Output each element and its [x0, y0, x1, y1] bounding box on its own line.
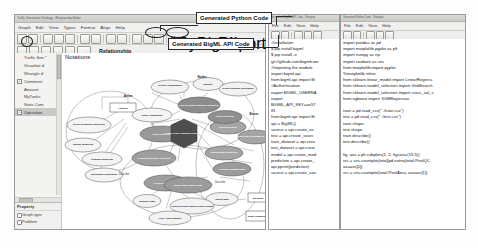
svg-text:Traffic data engineering: Traffic data engineering [174, 184, 203, 187]
node-sensor-data-collection[interactable]: Sensor data collection [205, 146, 243, 160]
node-result-visualization[interactable]: Result Visualization [151, 80, 189, 94]
tree-item-mytanks[interactable]: MyTanks [15, 93, 61, 101]
bigml-code-text[interactable]: #Installation$ pip install bigml$ pip in… [269, 39, 339, 229]
zoom-icon[interactable] [132, 34, 142, 44]
node-mytanks[interactable]: MyTanks [248, 193, 265, 202]
property-label: Graph type [22, 212, 42, 217]
callout-leader-line [278, 35, 279, 47]
node-driver-behaviour-modeling[interactable]: Driver behaviour modeling [67, 117, 111, 133]
svg-text:Live predictive/analytic proto: Live predictive/analytic prototype [179, 104, 219, 107]
node-filter-split-dataset[interactable]: Filter / split dataset [149, 211, 191, 225]
node-supply-modeling[interactable]: Supply modeling [65, 138, 101, 152]
svg-text:Wrangle data: Wrangle data [139, 200, 155, 203]
node-data-collection[interactable]: Data collection [208, 111, 242, 124]
tree-item-amount[interactable]: Amount [15, 85, 61, 93]
property-row-graph-type[interactable]: Graph type [15, 211, 61, 218]
copy-icon[interactable] [54, 34, 64, 44]
tree-vertical-scrollbar[interactable] [56, 53, 61, 195]
undo-icon[interactable] [80, 34, 90, 44]
scrollbar-thumb[interactable] [57, 55, 61, 79]
svg-text:Boxes: Boxes [249, 112, 258, 116]
property-row-problem[interactable]: Problem [15, 218, 61, 225]
python-menubar: File Edit View Help [341, 22, 465, 31]
menu-view[interactable]: View [49, 23, 59, 32]
diagram-body: Traffic Sim * Visualize d Wrangle d + Co… [15, 53, 265, 229]
code-line: srs = sns.countplot(total.PoolArea, ax=a… [343, 170, 464, 176]
node-provide-realtime-data[interactable]: Provide realtime data [213, 162, 251, 176]
callout-leader-line [238, 47, 278, 48]
diagram-canvas[interactable]: Notations [62, 53, 265, 229]
paste-icon[interactable] [65, 34, 75, 44]
node-traffic-simulation[interactable]: Traffic Simulation [132, 108, 172, 122]
svg-text:Traffic Simulation: Traffic Simulation [142, 114, 163, 117]
menu-file[interactable]: File [344, 22, 351, 30]
tree-item-traffic-sim[interactable]: Traffic Sim * [15, 54, 61, 62]
graph-nodes: Result Visualization Monitor React Realt… [65, 78, 265, 226]
node-traffic-data-engineering[interactable]: Traffic data engineering [164, 177, 212, 193]
menu-graph[interactable]: Graph [18, 23, 31, 32]
menu-edit[interactable]: Edit [36, 23, 44, 32]
svg-text:Intermodal Simulation: Intermodal Simulation [91, 173, 118, 176]
tree-expander-icon[interactable]: + [17, 79, 22, 84]
property-panel: Property Graph type Problem [15, 202, 61, 229]
redo-icon[interactable] [91, 34, 101, 44]
svg-text:Demand modeling: Demand modeling [91, 158, 113, 161]
svg-text:Data collection: Data collection [216, 115, 234, 118]
tree-item-wrangle[interactable]: Wrangle d [15, 70, 61, 78]
menu-edit[interactable]: Edit [284, 22, 291, 30]
svg-text:Describe: Describe [215, 180, 226, 184]
node-react-realtime-calibration[interactable]: React Realtime calibration [219, 82, 257, 96]
callout-generated-python-code: Generated Python Code [196, 12, 272, 24]
svg-text:Provide realtime data: Provide realtime data [219, 168, 245, 171]
toolbar-divider [129, 35, 130, 43]
svg-text:Amount: Amount [118, 107, 128, 110]
node-demand-modeling[interactable]: Demand modeling [82, 152, 122, 166]
screenshot-root: Traffic Simulation Ontology - Relationsh… [0, 0, 478, 248]
svg-text:Traffic Flow Analytical Resear: Traffic Flow Analytical Research [165, 132, 204, 135]
node-origin-destination-inference[interactable]: Origin-destination inference [132, 150, 176, 166]
svg-text:Ingest data: Ingest data [215, 198, 229, 201]
python-code-text[interactable]: import pandas as pdimport matplotlib.pyp… [341, 39, 465, 229]
svg-text:Supply modeling: Supply modeling [73, 143, 94, 146]
tree-item-visualize[interactable]: Visualize d [15, 62, 61, 70]
diagram-menubar: Graph Edit View Types Format Align Help [15, 23, 265, 33]
menu-help[interactable]: Help [382, 22, 391, 30]
menu-help[interactable]: Help [310, 22, 319, 30]
move-icon[interactable] [106, 34, 116, 44]
svg-text:Arrive: Arrive [124, 94, 133, 98]
menu-help[interactable]: Help [116, 23, 125, 32]
svg-text:MyTanks: MyTanks [253, 197, 264, 200]
toolbar-divider [166, 35, 167, 43]
tree-expander-icon[interactable]: + [17, 110, 22, 115]
menu-view[interactable]: View [368, 22, 377, 30]
highlight-python-code-button [145, 27, 167, 38]
svg-text:Describe: Describe [119, 172, 130, 176]
callout-leader-line [160, 25, 198, 26]
menu-types[interactable]: Types [64, 23, 76, 32]
menu-format[interactable]: Format [81, 23, 96, 32]
menu-edit[interactable]: Edit [356, 22, 363, 30]
cut-icon[interactable] [43, 34, 53, 44]
node-intermodal-simulation[interactable]: Intermodal Simulation [85, 168, 123, 182]
svg-text:Nodes: Nodes [197, 75, 207, 79]
svg-text:Monitor: Monitor [203, 83, 212, 86]
node-live-predictive-prototype[interactable]: Live predictive/analytic prototype [178, 97, 220, 113]
svg-text:Define the performance metrics: Define the performance metrics [236, 135, 265, 138]
node-wrangle-data[interactable]: Wrangle data [133, 195, 161, 208]
menu-view[interactable]: View [296, 22, 305, 30]
node-amount[interactable]: Amount [110, 103, 136, 112]
property-bullet-icon [17, 213, 22, 218]
rotate-icon[interactable] [117, 34, 127, 44]
node-monitor[interactable]: Monitor [193, 78, 223, 91]
svg-text:Convert binary data to open fo: Convert binary data to open format [171, 205, 213, 208]
svg-text:Origin-destination inference: Origin-destination inference [137, 157, 171, 160]
callout-generated-bigml-code: Generated BigML API Code [168, 38, 254, 50]
property-panel-header: Property [15, 203, 61, 211]
tree-item-stats-com[interactable]: Stats Com [15, 101, 61, 109]
node-stats-comment[interactable]: Stats Comment [246, 211, 265, 221]
callout-leader-line [276, 16, 292, 17]
svg-text:Sensor data collection: Sensor data collection [211, 151, 238, 154]
menu-align[interactable]: Align [100, 23, 110, 32]
toolbar-divider [103, 35, 104, 43]
code-line: source = api.create_sou [271, 170, 338, 176]
